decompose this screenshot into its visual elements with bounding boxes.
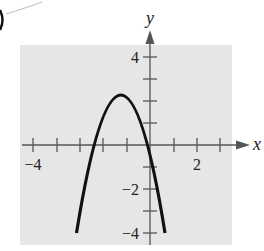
y-tick-label-neg2: −2: [122, 181, 139, 198]
panel-marker-paren: [0, 10, 3, 30]
y-tick-label-neg4: −4: [122, 225, 139, 242]
x-tick-label-2: 2: [193, 156, 201, 173]
y-axis-arrow-icon: [146, 30, 155, 44]
x-tick-label-neg4: −4: [24, 156, 41, 173]
y-tick-label-4: 4: [131, 49, 139, 66]
x-axis-arrow-icon: [236, 141, 250, 150]
x-axis-label: x: [252, 134, 261, 154]
y-axis-label: y: [144, 8, 154, 28]
parabola-graph: −4 2 4 −2 −4 x y: [0, 0, 264, 251]
panel-marker-arc: [6, 2, 42, 14]
